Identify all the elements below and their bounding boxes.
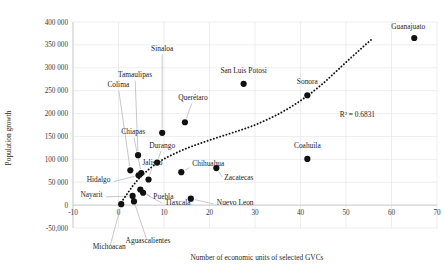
data-point: [411, 35, 417, 41]
data-point-label: Chiapas: [121, 127, 145, 136]
data-point: [145, 176, 151, 182]
x-tick-label: 30: [251, 209, 259, 217]
x-tick-label: -10: [68, 209, 78, 217]
data-point-label: Coahuila: [294, 141, 321, 150]
data-point: [178, 169, 184, 175]
data-points: [118, 35, 417, 207]
y-axis-title: Population growth: [4, 110, 13, 165]
y-tick-label: 50 000: [48, 179, 68, 187]
y-tick-labels: -50,000050 000100 000150 000200 000250 0…: [45, 19, 69, 233]
data-point-label: Tamaulipas: [118, 70, 152, 79]
data-point: [241, 81, 247, 87]
label-leader-line: [150, 169, 152, 176]
x-tick-label: 50: [342, 209, 350, 217]
y-tick-label: 300 000: [45, 64, 69, 72]
data-point-label: San Luis Potosi: [220, 66, 266, 75]
data-point: [140, 190, 146, 196]
label-leader-line: [159, 151, 162, 159]
label-leader-line: [195, 200, 214, 204]
data-point-label: Colima: [107, 80, 129, 89]
chart-canvas: -50,000050 000100 000150 000200 000250 0…: [0, 0, 445, 266]
data-point-label: Aguascalientes: [126, 236, 171, 245]
data-point-label: Sinaloa: [151, 44, 174, 53]
data-point: [135, 172, 141, 178]
scatter-chart: -50,000050 000100 000150 000200 000250 0…: [0, 0, 445, 266]
x-tick-label: 60: [388, 209, 396, 217]
data-point-label: Sonora: [297, 77, 319, 86]
annotations: R² = 0.6831: [340, 110, 376, 119]
y-tick-label: 200 000: [45, 110, 69, 118]
y-tick-label: 400 000: [45, 19, 69, 27]
data-point: [130, 193, 136, 199]
label-leader-line: [114, 176, 135, 181]
data-point: [182, 119, 188, 125]
x-tick-labels: -10010203040506070: [68, 209, 441, 217]
data-point-label: Zacatecas: [224, 173, 253, 182]
data-point-label: Jalisco: [142, 158, 162, 167]
data-point: [131, 198, 137, 204]
y-tick-label: 250 000: [45, 87, 69, 95]
data-point-label: Querétaro: [178, 93, 208, 102]
data-point: [118, 201, 124, 207]
data-point-label: Guanajuato: [391, 22, 425, 31]
data-point-label: Michoacan: [93, 242, 126, 251]
data-point-label: Hidalgo: [87, 175, 111, 184]
data-point-label: Nuevo Leon: [217, 198, 254, 207]
x-axis-title: Number of economic units of selected GVC…: [191, 253, 324, 262]
label-leader-line: [135, 81, 138, 151]
data-point-label: Nayarit: [80, 190, 103, 199]
label-leader-line: [185, 168, 189, 170]
x-tick-label: 40: [297, 209, 305, 217]
data-point: [127, 167, 133, 173]
x-tick-label: 10: [160, 209, 168, 217]
data-point-label: Durango: [149, 141, 175, 150]
label-leader-line: [135, 205, 147, 240]
y-tick-label: -50,000: [46, 225, 69, 233]
y-tick-label: 350 000: [45, 41, 69, 49]
data-point: [304, 156, 310, 162]
data-point: [135, 152, 141, 158]
data-point-label: Tlaxcala: [165, 198, 191, 207]
data-point: [304, 92, 310, 98]
data-point: [159, 130, 165, 136]
y-tick-label: 150 000: [45, 133, 69, 141]
x-tick-label: 20: [206, 209, 214, 217]
y-tick-label: 100 000: [45, 156, 69, 164]
label-leader-line: [186, 103, 191, 118]
x-tick-label: 70: [433, 209, 441, 217]
r-squared-annotation: R² = 0.6831: [340, 110, 376, 119]
data-point-label: Chihuahua: [192, 159, 225, 168]
label-leader-line: [219, 172, 223, 178]
